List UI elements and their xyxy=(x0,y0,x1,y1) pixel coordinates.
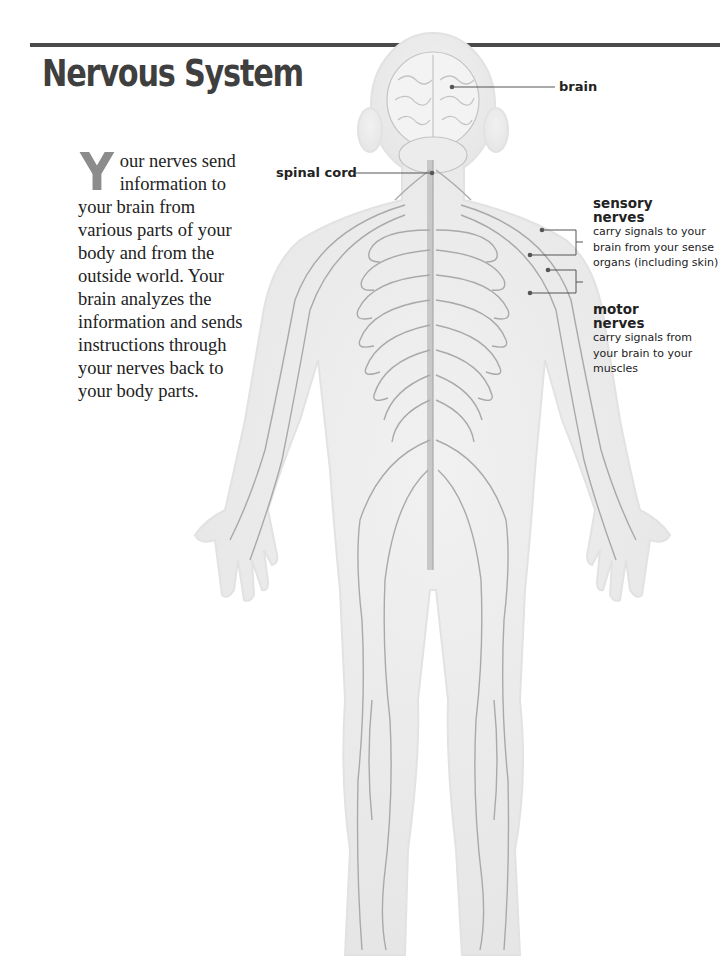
drop-cap: Y xyxy=(80,152,114,192)
sensory-description: carry signals to your brain from your se… xyxy=(593,224,720,271)
sensory-heading-1: sensory xyxy=(593,196,720,210)
motor-description: carry signals from your brain to your mu… xyxy=(593,330,703,377)
label-sensory-nerves: sensory nerves carry signals to your bra… xyxy=(593,196,720,271)
page-title: Nervous System xyxy=(42,52,303,95)
sensory-heading-2: nerves xyxy=(593,210,720,224)
motor-heading-1: motor xyxy=(593,302,703,316)
motor-heading-2: nerves xyxy=(593,316,703,330)
label-spinal-cord: spinal cord xyxy=(276,165,357,180)
brain-shape xyxy=(387,52,479,173)
label-motor-nerves: motor nerves carry signals from your bra… xyxy=(593,302,703,377)
label-brain: brain xyxy=(559,79,597,94)
intro-paragraph: Your nerves send information to your bra… xyxy=(78,150,248,403)
